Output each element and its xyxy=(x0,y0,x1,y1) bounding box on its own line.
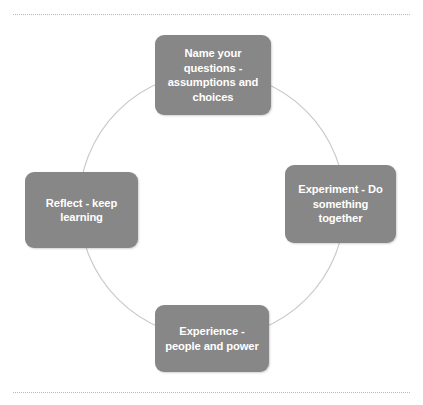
cycle-node-name-label: Name your questions - assumptions and ch… xyxy=(161,46,265,104)
bottom-dotted-divider xyxy=(13,392,410,393)
cycle-node-name[interactable]: Name your questions - assumptions and ch… xyxy=(155,35,271,115)
cycle-node-experience-label: Experience - people and power xyxy=(161,324,263,353)
cycle-node-experiment-label: Experiment - Do something together xyxy=(291,182,390,226)
cycle-node-experiment[interactable]: Experiment - Do something together xyxy=(285,165,396,243)
cycle-node-reflect[interactable]: Reflect - keep learning xyxy=(25,172,138,248)
cycle-node-experience[interactable]: Experience - people and power xyxy=(155,305,269,372)
cycle-diagram-page: Name your questions - assumptions and ch… xyxy=(0,0,423,405)
cycle-node-reflect-label: Reflect - keep learning xyxy=(31,196,132,225)
